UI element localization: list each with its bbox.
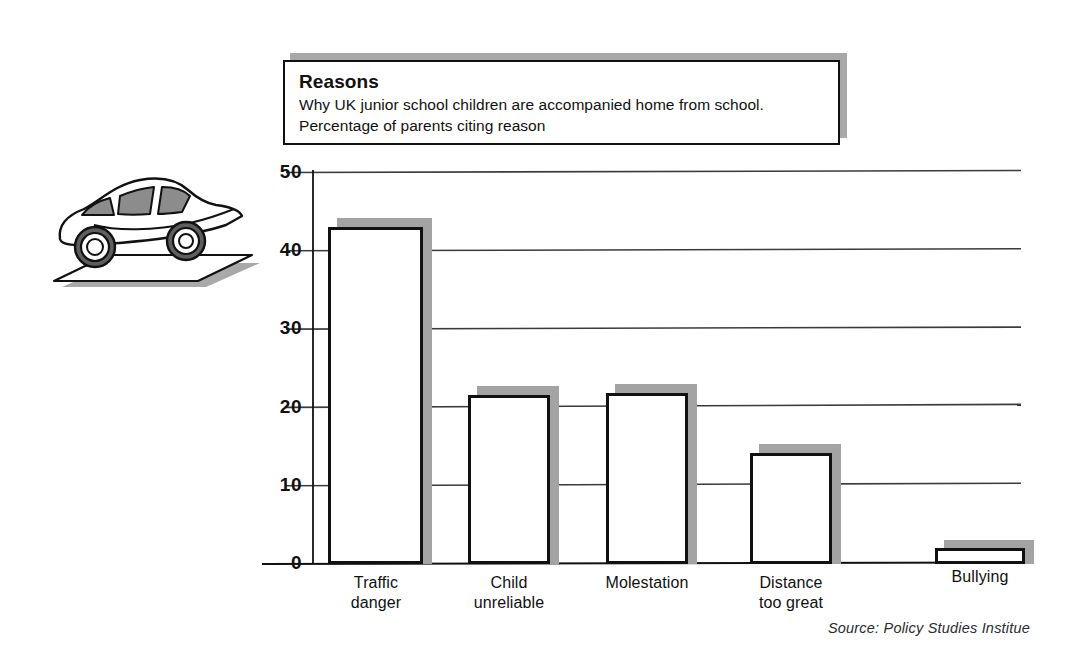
bar-rect[interactable] (935, 548, 1025, 564)
y-tick-0: 0 (256, 552, 302, 574)
y-tick-label: 0 (256, 552, 302, 574)
chart-figure: Reasons Why UK junior school children ar… (0, 0, 1090, 657)
category-label-distance-too-great: Distance too great (720, 573, 862, 614)
y-tick-label: 10 (256, 474, 302, 496)
category-label-bullying: Bullying (909, 567, 1051, 587)
category-label-traffic-danger: Traffic danger (305, 573, 447, 614)
y-tick-label: 50 (256, 161, 302, 183)
y-tick-20: 20 (256, 396, 302, 418)
y-tick-label: 30 (256, 317, 302, 339)
y-tick-label: 20 (256, 396, 302, 418)
y-tick-10: 10 (256, 474, 302, 496)
y-tick-label: 40 (256, 239, 302, 261)
bar-rect[interactable] (750, 453, 832, 564)
category-label-molestation: Molestation (576, 573, 718, 593)
bar-rect[interactable] (328, 227, 423, 564)
bar-rect[interactable] (468, 395, 550, 564)
category-label-child-unreliable: Child unreliable (438, 573, 580, 614)
y-tick-30: 30 (256, 317, 302, 339)
source-note: Source: Policy Studies Institue (700, 620, 1030, 636)
bar-rect[interactable] (606, 393, 688, 564)
y-tick-40: 40 (256, 239, 302, 261)
plot-area: 50 40 30 20 10 0 (0, 0, 1090, 657)
y-tick-50: 50 (256, 161, 302, 183)
